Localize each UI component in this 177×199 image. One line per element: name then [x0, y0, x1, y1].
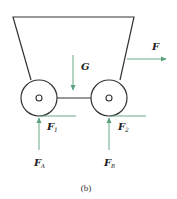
gravity-label: G [81, 61, 90, 72]
cart-free-body-diagram: G F F1 F2 FA FB (b) [0, 0, 177, 199]
right-wheel [91, 80, 127, 116]
cart-body [13, 17, 134, 80]
friction-rear-label: F2 [117, 121, 129, 133]
applied-force-label: F [151, 41, 160, 52]
left-wheel [21, 80, 57, 116]
friction-front-label: F1 [46, 121, 58, 133]
normal-rear-label: FB [103, 157, 115, 169]
figure-caption: (b) [81, 183, 92, 193]
normal-front-label: FA [33, 157, 45, 169]
